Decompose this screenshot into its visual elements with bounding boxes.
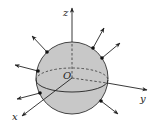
y-axis bbox=[107, 83, 147, 90]
z-axis-label: z bbox=[62, 7, 69, 18]
y-axis-label: y bbox=[139, 93, 146, 104]
normal-vector-upper-left bbox=[32, 36, 47, 52]
diagram-svg: z y x O bbox=[0, 0, 158, 130]
normal-vector-left bbox=[15, 65, 38, 71]
surface-point bbox=[99, 99, 103, 103]
x-axis-label: x bbox=[12, 111, 18, 122]
surface-point bbox=[36, 69, 40, 73]
sphere-diagram: z y x O bbox=[0, 0, 158, 130]
normal-vector-lower-right bbox=[101, 101, 118, 114]
surface-point bbox=[45, 50, 49, 54]
normal-vector-upper-right bbox=[102, 43, 120, 58]
surface-point bbox=[100, 56, 104, 60]
normal-vector-top-right bbox=[93, 28, 104, 48]
surface-point bbox=[38, 91, 42, 95]
surface-point bbox=[91, 46, 95, 50]
normal-vector-lower-left bbox=[17, 93, 40, 99]
origin-label: O bbox=[63, 70, 71, 81]
